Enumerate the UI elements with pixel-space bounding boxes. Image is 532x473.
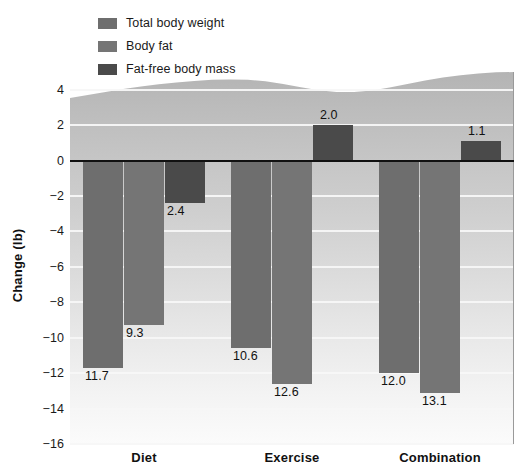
bar xyxy=(272,161,312,384)
zero-axis-line xyxy=(70,160,514,162)
gridline xyxy=(70,89,514,91)
y-axis-tick-label: −8 xyxy=(30,295,64,309)
bar-value-label: 1.1 xyxy=(468,124,486,138)
bar xyxy=(165,161,205,204)
y-axis-tick-label: 4 xyxy=(30,83,64,97)
gridline xyxy=(70,408,514,410)
legend-label: Body fat xyxy=(126,40,173,53)
bar xyxy=(83,161,123,368)
x-axis-category-label: Diet xyxy=(131,450,156,465)
y-axis-tick-label: −16 xyxy=(30,437,64,451)
y-axis-tick-label: 2 xyxy=(30,118,64,132)
bar-value-label: 10.6 xyxy=(233,349,258,363)
bar-value-label: 13.1 xyxy=(422,394,447,408)
bar xyxy=(231,161,271,349)
y-axis-tick-label: −12 xyxy=(30,366,64,380)
bar-value-label: 11.7 xyxy=(85,369,109,383)
bar-value-label: 2.0 xyxy=(320,108,338,122)
y-axis-tick-label: 0 xyxy=(30,154,64,168)
plot-area: 11.79.32.410.612.62.012.013.11.1 xyxy=(70,72,514,444)
bar-value-label: 12.0 xyxy=(381,374,406,388)
gridline xyxy=(70,124,514,126)
y-axis-tick-label: −2 xyxy=(30,189,64,203)
bar xyxy=(420,161,460,393)
bar-value-label: 12.6 xyxy=(274,385,299,399)
bar xyxy=(379,161,419,374)
legend-item: Total body weight xyxy=(98,14,338,33)
y-axis-ticks: 420−2−4−6−8−10−12−14−16 xyxy=(26,72,64,444)
bar-value-label: 2.4 xyxy=(167,204,185,218)
legend-label: Total body weight xyxy=(126,17,224,30)
y-axis-tick-label: −14 xyxy=(30,402,64,416)
legend-swatch-total-body-weight xyxy=(98,18,117,29)
bar xyxy=(313,125,353,160)
gridline xyxy=(70,443,514,445)
x-axis-category-label: Combination xyxy=(399,450,481,465)
y-axis-title: Change (lb) xyxy=(10,211,25,321)
legend-item: Body fat xyxy=(98,37,338,56)
x-axis-category-label: Exercise xyxy=(264,450,319,465)
plot-right-border xyxy=(513,72,514,444)
legend-swatch-body-fat xyxy=(98,41,117,52)
y-axis-tick-label: −4 xyxy=(30,224,64,238)
y-axis-tick-label: −10 xyxy=(30,331,64,345)
y-axis-tick-label: −6 xyxy=(30,260,64,274)
bar-value-label: 9.3 xyxy=(126,326,144,340)
bar xyxy=(461,141,501,160)
bar xyxy=(124,161,164,326)
